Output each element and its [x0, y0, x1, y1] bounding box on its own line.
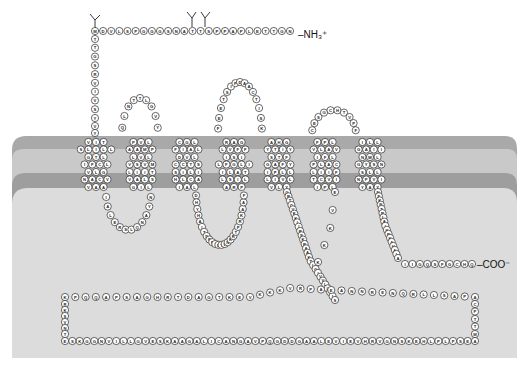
tm-helix-residue: V [268, 183, 275, 190]
residue-letter: A [340, 288, 343, 293]
residue-letter: A [94, 185, 97, 190]
residue-letter: I [317, 155, 318, 160]
residue-letter: N [175, 29, 178, 34]
residue-letter: V [94, 81, 97, 86]
extracellular-loop-residue: I [255, 104, 262, 111]
residue-letter: L [422, 292, 425, 297]
cytoplasmic-loop-residue: S [157, 337, 164, 344]
tm-helix-residue: V [325, 176, 332, 183]
residue-letter: V [128, 162, 131, 167]
tm-helix-residue: L [329, 153, 336, 160]
residue-letter: N [149, 195, 152, 200]
tm-helix-residue: T [242, 168, 249, 175]
tm-helix-residue: L [329, 138, 336, 145]
cytoplasmic-loop-residue: E [413, 337, 420, 344]
residue-letter: A [232, 29, 235, 34]
residue-letter: L [320, 162, 323, 167]
residue-letter: P [452, 339, 455, 344]
residue-letter: A [241, 207, 244, 212]
tm-helix-residue: S [77, 146, 84, 153]
residue-letter: L [376, 170, 379, 175]
residue-letter: L [197, 147, 200, 152]
residue-letter: A [105, 295, 108, 300]
residue-letter: L [244, 177, 247, 182]
tm-helix-residue: T [187, 161, 194, 168]
cytoplasmic-loop-residue: L [127, 337, 134, 344]
residue-letter: I [95, 140, 96, 145]
tm-helix-residue: A [134, 146, 141, 153]
residue-letter: V [372, 177, 375, 182]
tm-helix-residue: V [137, 153, 144, 160]
residue-letter: A [128, 147, 131, 152]
tm-helix-residue: I [333, 176, 340, 183]
intracellular-loop-residue: F [240, 192, 247, 199]
residue-letter: C [217, 339, 220, 344]
cytoplasmic-loop-residue: A [451, 292, 458, 299]
residue-letter: T [177, 295, 180, 300]
n-terminal-residue: N [286, 27, 293, 34]
residue-letter: L [376, 140, 379, 145]
extracellular-loop-residue: C [327, 107, 334, 114]
cytoplasmic-loop-residue: T [471, 323, 478, 330]
residue-letter: R [118, 225, 121, 230]
cytoplasmic-loop-residue: K [164, 337, 171, 344]
tm-helix-residue: L [279, 168, 286, 175]
residue-letter: A [183, 29, 186, 34]
cytoplasmic-loop-residue: R [297, 285, 304, 292]
residue-letter: G [239, 339, 242, 344]
residue-letter: H [174, 177, 177, 182]
residue-letter: A [327, 162, 330, 167]
residue-letter: G [207, 295, 210, 300]
residue-letter: W [368, 155, 372, 160]
residue-letter: A [173, 339, 176, 344]
residue-letter: A [365, 147, 368, 152]
residue-letter: E [415, 339, 418, 344]
cytoplasmic-loop-residue: T [216, 293, 223, 300]
residue-letter: H [197, 213, 200, 218]
residue-letter: V [110, 29, 113, 34]
tm-helix-residue: C [172, 161, 179, 168]
residue-letter: A [396, 256, 399, 261]
residue-letter: T [218, 295, 221, 300]
tm-helix-residue: F [279, 161, 286, 168]
cytoplasmic-loop-residue: V [246, 293, 253, 300]
cytoplasmic-loop-residue: P [259, 337, 266, 344]
residue-letter: A [327, 147, 330, 152]
cytoplasmic-loop-residue: Q [266, 337, 273, 344]
residue-letter: D [290, 339, 293, 344]
tm-helix-residue: S [268, 153, 275, 160]
tm-helix-residue: L [130, 153, 137, 160]
glycosylation-icon [187, 12, 196, 27]
residue-letter: V [87, 185, 90, 190]
tm-helix-residue: L [145, 153, 152, 160]
tm-helix-residue: I [92, 138, 99, 145]
residue-letter: S [159, 339, 162, 344]
tm-helix-residue: C [180, 161, 187, 168]
tm-helix-residue: T [310, 176, 317, 183]
cytoplasmic-loop-residue: L [427, 337, 434, 344]
tm-helix-residue: I [370, 146, 377, 153]
residue-letter: P [312, 162, 315, 167]
residue-letter: I [336, 177, 337, 182]
intracellular-loop-residue: K [238, 212, 245, 219]
cytoplasmic-loop-residue: D [185, 293, 192, 300]
residue-letter: L [110, 147, 113, 152]
tm-helix-residue: Y [264, 146, 271, 153]
residue-letter: S [443, 293, 446, 298]
residue-letter: L [218, 162, 221, 167]
cytoplasmic-loop-residue: E [61, 337, 68, 344]
tm-helix-residue: L [145, 138, 152, 145]
cytoplasmic-loop-residue: R [410, 290, 417, 297]
tm-helix-residue: S [370, 161, 377, 168]
cytoplasmic-loop-residue: A [179, 337, 186, 344]
cytoplasmic-loop-residue: A [471, 293, 478, 300]
residue-letter: P [151, 147, 154, 152]
residue-letter: D [187, 295, 190, 300]
residue-letter: N [350, 289, 353, 294]
tm-helix-residue: L [108, 146, 115, 153]
residue-letter: F [91, 162, 94, 167]
cytoplasmic-loop-residue: R [369, 337, 376, 344]
residue-letter: Y [289, 147, 292, 152]
residue-letter: K [63, 295, 66, 300]
n-terminal-residue: Y [91, 114, 98, 121]
